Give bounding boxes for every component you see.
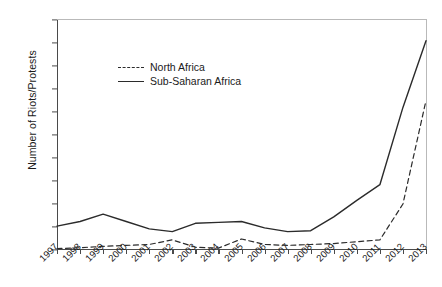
y-axis-tick-mark — [52, 134, 57, 135]
y-axis-tick-mark — [52, 226, 57, 227]
legend-item-sub-saharan-africa: Sub-Saharan Africa — [118, 74, 241, 88]
y-axis-tick-mark — [52, 203, 57, 204]
y-axis-tick-mark — [52, 157, 57, 158]
y-axis-tick-mark — [52, 180, 57, 181]
legend-label-sub-saharan-africa: Sub-Saharan Africa — [150, 74, 241, 88]
legend-item-north-africa: North Africa — [118, 60, 241, 74]
y-axis-tick-mark — [52, 42, 57, 43]
legend-solid-line-icon — [118, 76, 144, 86]
legend-label-north-africa: North Africa — [150, 60, 205, 74]
y-axis-tick-mark — [52, 19, 57, 20]
y-axis-title: Number of Riots/Protests — [26, 15, 38, 205]
riots-protests-line-chart: Number of Riots/Protests 050100150200250… — [0, 0, 442, 287]
plot-area — [57, 20, 427, 250]
y-axis-tick-mark — [52, 88, 57, 89]
y-axis-tick-mark — [52, 111, 57, 112]
y-axis-tick-mark — [52, 65, 57, 66]
chart-legend: North Africa Sub-Saharan Africa — [118, 60, 241, 88]
legend-dashed-line-icon — [118, 62, 144, 72]
